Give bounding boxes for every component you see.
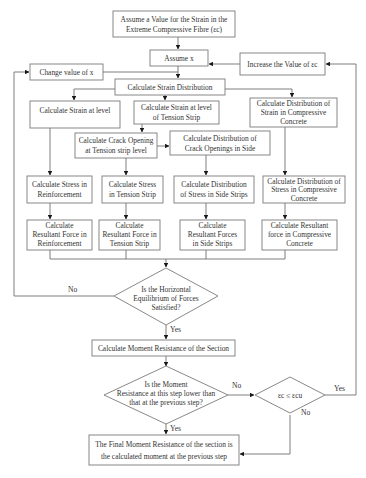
svg-text:Equilibrium of Forces: Equilibrium of Forces [133,294,198,303]
svg-text:Tension Strip: Tension Strip [110,239,150,248]
svg-text:the calculated moment at the p: the calculated moment at the previous st… [101,452,227,461]
svg-text:Calculate Strain at level: Calculate Strain at level [141,103,212,112]
svg-text:Resultant Forces: Resultant Forces [188,230,238,239]
svg-text:Reinforcement: Reinforcement [38,239,83,248]
stress-side-box: Calculate Distribution of Stress in Side… [174,176,254,203]
change-x-box: Change value of x [30,64,103,80]
force-tension-box: Calculate Resultant Force in Tension Str… [99,220,160,250]
svg-text:Concrete: Concrete [280,117,307,126]
svg-text:that at the previous step?: that at the previous step? [129,398,202,407]
svg-text:Calculate Crack Opening: Calculate Crack Opening [79,136,154,145]
svg-text:Resultant Force in: Resultant Force in [102,230,156,239]
svg-text:Calculate Distribution of: Calculate Distribution of [257,99,331,108]
svg-text:Change value of x: Change value of x [40,68,94,77]
svg-text:Reinforcement: Reinforcement [38,190,83,199]
svg-text:Calculate: Calculate [199,221,228,230]
svg-text:Crack Openings in Side: Crack Openings in Side [185,144,256,153]
svg-text:Calculate Strain at level: Calculate Strain at level [40,106,111,115]
svg-text:Strain in Compressive: Strain in Compressive [261,108,327,117]
svg-text:Calculate Stress in: Calculate Stress in [32,180,87,189]
stress-reinforcement-box: Calculate Stress in Reinforcement [27,176,92,203]
svg-text:at Tension strip level: at Tension strip level [85,146,147,155]
final-box: The Final Moment Resistance of the secti… [89,435,239,465]
svg-text:in Tension Strip: in Tension Strip [109,190,156,199]
strain-tension-box: Calculate Strain at level of Tension Str… [134,101,219,124]
svg-text:Concrete: Concrete [291,194,318,203]
svg-text:The Final Moment Resistance of: The Final Moment Resistance of the secti… [95,440,232,449]
svg-text:Extreme Compressive Fibre (εc): Extreme Compressive Fibre (εc) [126,25,223,34]
svg-text:Concrete: Concrete [286,239,313,248]
equilibrium-no-label: No [68,285,77,294]
moment-box: Calculate Moment Resistance of the Secti… [92,340,235,356]
force-reinforcement-box: Calculate Resultant Force in Reinforceme… [27,220,92,250]
strain-level-box: Calculate Strain at level [30,101,120,128]
stress-compressive-box: Calculate Distribution of Stress in Comp… [263,176,345,203]
svg-text:Calculate: Calculate [46,221,75,230]
svg-text:Calculate: Calculate [116,221,145,230]
svg-text:Assume a Value for the Strain: Assume a Value for the Strain in the [121,15,229,24]
force-compressive-box: Calculate Resultant force in Compressive… [262,220,337,250]
svg-text:Satisfied?: Satisfied? [151,303,180,312]
moment-no-label: No [232,381,241,390]
crack-opening-box: Calculate Crack Opening at Tension strip… [75,133,157,158]
crack-distribution-box: Calculate Distribution of Crack Openings… [170,131,270,155]
svg-text:Resultant Force in: Resultant Force in [32,230,86,239]
flowchart: Assume a Value for the Strain in the Ext… [0,0,366,478]
strain-yes-label: Yes [334,384,345,393]
strain-no-label: No [301,408,310,417]
svg-text:force in Compressive: force in Compressive [268,230,332,239]
strain-compressive-box: Calculate Distribution of Strain in Comp… [250,98,337,127]
assume-x-box: Assume x [150,50,208,66]
equilibrium-yes-label: Yes [170,325,181,334]
strain-limit-decision: εc ≤ εcu [255,377,325,413]
svg-text:Is the Moment: Is the Moment [144,380,188,389]
svg-text:Calculate Strain Distribution: Calculate Strain Distribution [128,83,213,92]
svg-text:in Side Strips: in Side Strips [193,239,233,248]
svg-text:εc ≤ εcu: εc ≤ εcu [278,391,303,400]
increase-ec-box: Increase the Value of εc [240,53,325,75]
force-side-box: Calculate Resultant Forces in Side Strip… [180,220,245,250]
svg-text:Calculate Distribution of: Calculate Distribution of [183,134,257,143]
strain-distribution-box: Calculate Strain Distribution [115,79,225,95]
moment-yes-label: Yes [170,424,181,433]
start-box: Assume a Value for the Strain in the Ext… [113,11,235,37]
svg-text:Assume x: Assume x [164,54,194,63]
svg-text:Calculate Resultant: Calculate Resultant [271,221,330,230]
svg-text:Calculate Moment Resistance of: Calculate Moment Resistance of the Secti… [98,344,229,353]
svg-text:Is the Horizontal: Is the Horizontal [141,285,191,294]
svg-text:of Tension Strip: of Tension Strip [153,113,201,122]
svg-text:of Stress in Side Strips: of Stress in Side Strips [180,190,247,199]
svg-text:Calculate Stress: Calculate Stress [109,180,157,189]
svg-text:Calculate Distribution: Calculate Distribution [181,180,247,189]
equilibrium-decision: Is the Horizontal Equilibrium of Forces … [114,268,218,325]
stress-tension-box: Calculate Stress in Tension Strip [102,176,163,203]
svg-text:Resistance at this step lower: Resistance at this step lower than [117,389,216,398]
moment-decision: Is the Moment Resistance at this step lo… [104,366,228,424]
svg-text:Increase the Value of εc: Increase the Value of εc [247,60,318,69]
